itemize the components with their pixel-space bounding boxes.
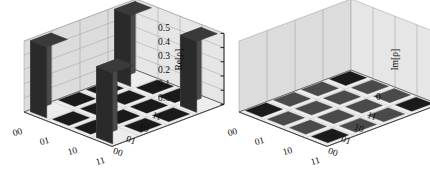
- panel-imaginary-part: 0 Im[ρ] 00 01 10 11 11 10 01 00: [215, 0, 430, 175]
- imaginary-part-plot: [215, 0, 430, 175]
- im-axis-title: Im[ρ]: [391, 49, 401, 71]
- re-ztick-5: 0.0: [158, 94, 170, 104]
- imaginary-part-stage: 0 Im[ρ] 00 01 10 11 11 10 01 00: [215, 0, 430, 175]
- re-ztick-3: 0.2: [158, 66, 170, 76]
- re-ztick-1: 0.4: [158, 38, 170, 48]
- im-ztick-0: 0: [376, 93, 381, 103]
- panel-real-part: 0.5 0.4 0.3 0.2 0.1 0.0 Re[ρ] 00 01 10 1…: [0, 0, 215, 175]
- re-ztick-0: 0.5: [158, 24, 170, 34]
- real-part-plot: [0, 0, 215, 175]
- real-part-stage: 0.5 0.4 0.3 0.2 0.1 0.0 Re[ρ] 00 01 10 1…: [0, 0, 215, 175]
- re-ztick-4: 0.1: [158, 80, 170, 90]
- density-matrix-figure: 0.5 0.4 0.3 0.2 0.1 0.0 Re[ρ] 00 01 10 1…: [0, 0, 430, 175]
- re-axis-title: Re[ρ]: [175, 49, 185, 71]
- re-ztick-2: 0.3: [158, 52, 170, 62]
